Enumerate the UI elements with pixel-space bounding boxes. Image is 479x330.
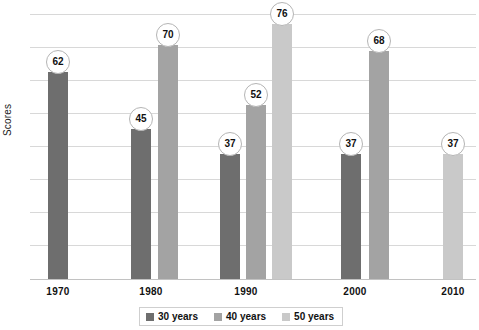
bar-value-label: 70	[156, 23, 180, 47]
bar-1970-30-years[interactable]	[48, 72, 68, 279]
x-tick-2010: 2010	[423, 286, 479, 297]
legend-label: 30 years	[158, 311, 198, 322]
bar-1990-30-years[interactable]	[220, 154, 240, 279]
x-tick-2000: 2000	[325, 286, 385, 297]
plot-area: 62 45 70 37 52 76 37 68 37	[30, 0, 476, 280]
x-tick-1980: 1980	[121, 286, 181, 297]
legend-item-30-years[interactable]: 30 years	[146, 311, 198, 322]
bar-1980-40-years[interactable]	[158, 45, 178, 279]
bar-chart: Scores 62 45 70 37 52 76 37 68 37	[0, 0, 479, 330]
legend-swatch-icon	[214, 313, 222, 321]
bar-value-label: 76	[270, 2, 294, 26]
legend-item-40-years[interactable]: 40 years	[214, 311, 266, 322]
bar-2010-50-years[interactable]	[443, 154, 463, 279]
axis-baseline	[30, 279, 476, 280]
x-tick-1970: 1970	[28, 286, 88, 297]
bar-1980-30-years[interactable]	[131, 129, 151, 279]
gridline	[30, 80, 476, 81]
bar-value-label: 45	[129, 107, 153, 131]
x-axis-labels: 1970 1980 1990 2000 2010	[30, 286, 476, 302]
legend-swatch-icon	[146, 313, 154, 321]
x-tick-1990: 1990	[216, 286, 276, 297]
gridline	[30, 14, 476, 15]
y-axis-title: Scores	[2, 76, 13, 92]
y-axis-title-text: Scores	[2, 120, 13, 136]
bar-value-label: 68	[367, 29, 391, 53]
legend-label: 40 years	[226, 311, 266, 322]
bar-value-label: 62	[46, 50, 70, 74]
bar-1990-50-years[interactable]	[272, 24, 292, 279]
bar-value-label: 37	[339, 132, 363, 156]
bar-value-label: 37	[441, 132, 465, 156]
legend-item-50-years[interactable]: 50 years	[282, 311, 334, 322]
bar-1990-40-years[interactable]	[246, 105, 266, 279]
gridline	[30, 47, 476, 48]
chart-legend: 30 years 40 years 50 years	[139, 307, 343, 326]
bar-value-label: 52	[244, 83, 268, 107]
bar-2000-30-years[interactable]	[341, 154, 361, 279]
legend-swatch-icon	[282, 313, 290, 321]
legend-label: 50 years	[294, 311, 334, 322]
bar-2000-40-years[interactable]	[369, 51, 389, 279]
bar-value-label: 37	[218, 132, 242, 156]
